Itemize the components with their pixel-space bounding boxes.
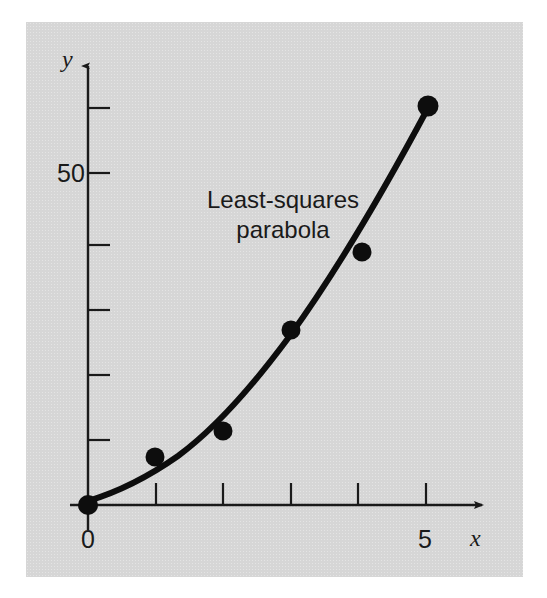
data-point-group: [78, 96, 439, 516]
data-point: [78, 495, 98, 515]
least-squares-parabola-chart: 50 0 5 y x Least-squares parabola: [0, 0, 547, 598]
data-point: [353, 243, 372, 262]
data-point: [418, 96, 439, 117]
annotation-line-1: Least-squares: [207, 186, 359, 213]
x-tick-label-0: 0: [81, 525, 95, 553]
data-point: [282, 321, 301, 340]
annotation-line-2: parabola: [236, 216, 330, 243]
data-point: [214, 422, 233, 441]
y-tick-label-50: 50: [57, 159, 85, 187]
data-point: [146, 448, 165, 467]
y-axis-label: y: [60, 46, 73, 72]
x-axis-label: x: [469, 525, 481, 551]
y-axis-ticks: [88, 108, 110, 440]
x-tick-label-5: 5: [418, 525, 432, 553]
x-axis-ticks: [156, 483, 426, 505]
least-squares-parabola-curve: [88, 108, 428, 501]
figure-root: 50 0 5 y x Least-squares parabola: [0, 0, 547, 598]
